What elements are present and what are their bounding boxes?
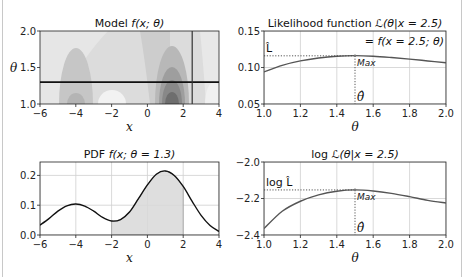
likelihood-title: Likelihood function ℒ(θ|x = 2.5) [268, 17, 443, 30]
x-tick-label: 1.6 [365, 108, 381, 119]
figure: −6−4−20241.01.52.0 1.01.21.41.61.82.00.0… [0, 0, 465, 277]
max-point [354, 189, 357, 192]
likelihood-xlabel: θ [351, 120, 359, 134]
x-tick-label: 2 [180, 108, 186, 119]
x-tick-label: 1.8 [402, 239, 418, 250]
y-tick-label: −2.2 [236, 193, 260, 204]
x-tick-label: −6 [33, 108, 48, 119]
theta-hat-label: θ̂ [357, 221, 365, 235]
x-tick-label: 2.0 [438, 239, 454, 250]
model-contours [40, 31, 223, 162]
y-tick-label: −2.0 [236, 157, 260, 168]
x-tick-label: 4 [216, 239, 222, 250]
max-label: Max [357, 192, 376, 202]
x-tick-label: 1.2 [292, 108, 308, 119]
pdf-title: PDF f(x; θ = 1.3) [84, 148, 176, 161]
y-tick-label: −2.4 [236, 230, 260, 241]
pdf-plot: −6−4−20240.00.10.2 [20, 162, 222, 250]
theta-hat-label: θ̂ [357, 90, 365, 104]
model-plot: −6−4−20241.01.52.0 [20, 26, 223, 163]
x-tick-label: 1.0 [256, 239, 272, 250]
y-tick-label: 0.0 [20, 230, 36, 241]
x-tick-label: 1.2 [292, 239, 308, 250]
x-tick-label: 1.4 [329, 108, 345, 119]
x-tick-label: 1.6 [365, 239, 381, 250]
loglikelihood-title: log ℒ(θ|x = 2.5) [311, 148, 398, 161]
y-tick-label: 0.05 [238, 99, 260, 110]
y-tick-label: 1.0 [20, 99, 36, 110]
likelihood-curve [264, 56, 446, 72]
loglikelihood-plot: 1.01.21.41.61.82.0−2.4−2.2−2.0 Maxθ̂log … [236, 157, 454, 251]
model-ylabel: θ [10, 61, 18, 75]
y-tick-label: 0.15 [238, 26, 260, 37]
pdf-xlabel: x [126, 251, 133, 265]
loglikelihood-xlabel: θ [351, 251, 359, 265]
max-label: Max [357, 58, 376, 68]
x-tick-label: 0 [144, 239, 150, 250]
likelihood-subtitle: = f(x = 2.5; θ) [365, 35, 444, 48]
x-tick-label: 1.0 [256, 108, 272, 119]
model-title: Model f(x; θ) [95, 17, 164, 30]
x-tick-label: 2.0 [438, 108, 454, 119]
x-tick-label: 1.8 [402, 108, 418, 119]
x-tick-label: 2 [180, 239, 186, 250]
y-tick-label: 0.1 [20, 200, 36, 211]
y-tick-label: 0.2 [20, 170, 36, 181]
y-tick-label: 1.5 [20, 62, 36, 73]
x-tick-label: 4 [216, 108, 222, 119]
x-tick-label: 1.4 [329, 239, 345, 250]
y-tick-label: 2.0 [20, 26, 36, 37]
y-tick-label: 0.10 [238, 62, 260, 73]
x-tick-label: −4 [68, 108, 83, 119]
model-xlabel: x [126, 120, 133, 134]
x-tick-label: −2 [104, 239, 119, 250]
lhat-label: L̂ [265, 42, 273, 55]
max-point [354, 55, 357, 58]
x-tick-label: −4 [68, 239, 83, 250]
x-tick-label: −2 [104, 108, 119, 119]
lhat-label: log L̂ [266, 176, 293, 189]
x-tick-label: −6 [33, 239, 48, 250]
x-tick-label: 0 [144, 108, 150, 119]
